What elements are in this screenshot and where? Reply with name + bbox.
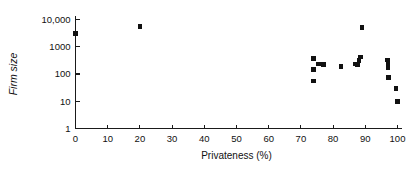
data-point: [386, 75, 391, 80]
data-point: [386, 65, 391, 70]
x-axis-title: Privateness (%): [201, 150, 272, 161]
x-tick-label: 70: [296, 133, 307, 144]
x-tick-label: 60: [263, 133, 274, 144]
y-tick-label: 10: [60, 96, 71, 107]
y-tick-label: 100: [55, 68, 71, 79]
y-tick-label: 10,000: [41, 14, 70, 25]
x-tick-label: 90: [360, 133, 371, 144]
data-point: [321, 62, 326, 67]
data-point: [73, 31, 78, 36]
x-tick-label: 80: [328, 133, 339, 144]
axis-titles-group: Privateness (%)Firm size: [7, 53, 272, 161]
y-tick-label: 1: [65, 123, 70, 134]
data-point: [138, 24, 143, 29]
data-point: [360, 25, 365, 30]
x-tick-label: 30: [167, 133, 178, 144]
figure-container: 110100100010,0000102030405060708090100 P…: [0, 0, 418, 173]
data-point: [311, 79, 316, 84]
x-tick-label: 50: [231, 133, 242, 144]
data-point: [311, 67, 316, 72]
data-point: [316, 62, 321, 67]
tick-labels-group: 110100100010,0000102030405060708090100: [41, 14, 405, 144]
y-tick-label: 1000: [49, 41, 70, 52]
data-point: [355, 62, 360, 67]
ticks-group: [76, 20, 398, 129]
data-point: [394, 86, 399, 91]
x-tick-label: 40: [199, 133, 210, 144]
scatter-plot: 110100100010,0000102030405060708090100 P…: [0, 0, 418, 173]
data-point: [311, 56, 316, 61]
x-tick-label: 100: [390, 133, 406, 144]
y-axis-title: Firm size: [7, 53, 19, 96]
x-tick-label: 20: [135, 133, 146, 144]
data-points-group: [73, 24, 400, 103]
axes-group: [76, 16, 402, 129]
data-point: [395, 99, 400, 104]
x-tick-label: 0: [73, 133, 78, 144]
x-tick-label: 10: [102, 133, 113, 144]
data-point: [339, 64, 344, 69]
data-point: [358, 55, 363, 60]
